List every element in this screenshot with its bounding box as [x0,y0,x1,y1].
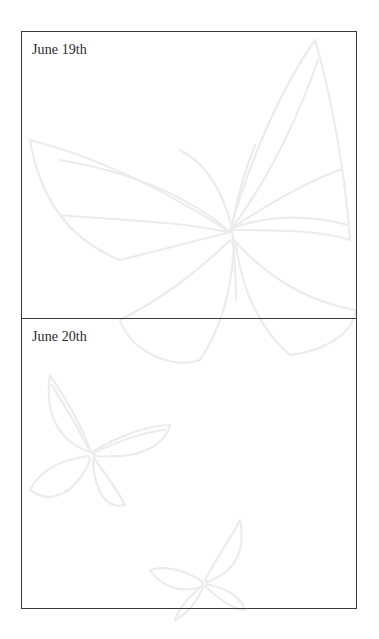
entry-date: June 19th [32,42,87,58]
journal-entry-june-19: June 19th [22,32,356,319]
entry-date: June 20th [32,329,87,345]
journal-page: June 19th June 20th [21,31,357,609]
journal-entry-june-20: June 20th [22,319,356,608]
entry-body[interactable] [30,353,348,600]
entry-body[interactable] [30,66,348,310]
